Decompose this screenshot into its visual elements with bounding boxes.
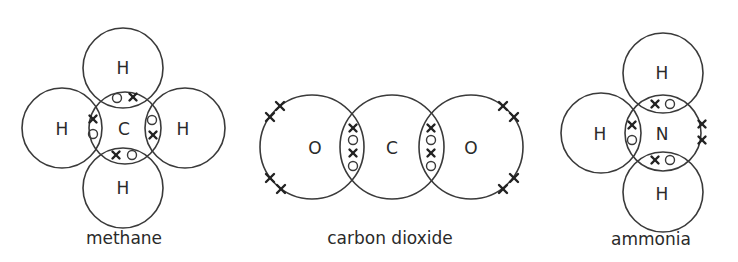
atom-label: C (386, 138, 398, 158)
lone-pair-electron (266, 174, 274, 182)
electron-circle (427, 136, 436, 145)
electron-circle (666, 156, 675, 165)
electron-circle (349, 136, 358, 145)
lone-pair-electron (266, 113, 274, 121)
atom-label: O (464, 138, 477, 158)
lone-pair-electron (277, 185, 285, 193)
atom-label: O (308, 138, 321, 158)
lone-pair-electron (499, 185, 507, 193)
methane-diagram: H H C H H methane (22, 28, 225, 248)
electron-circle (666, 100, 675, 109)
electron-cross (652, 157, 659, 164)
electron-cross (428, 125, 435, 132)
electron-cross (629, 122, 636, 129)
atom-label: N (656, 124, 669, 144)
atom-label: H (56, 119, 69, 139)
atom-label: H (177, 119, 190, 139)
electron-cross (350, 125, 357, 132)
electron-cross (350, 150, 357, 157)
lone-pair-electron (510, 113, 518, 121)
electron-circle (128, 151, 137, 160)
lone-pair-electron (276, 102, 284, 110)
electron-circle (427, 162, 436, 171)
atom-label: H (656, 63, 669, 83)
atom-label: H (656, 184, 669, 204)
atom-label: H (117, 58, 130, 78)
molecule-caption: methane (86, 228, 162, 248)
electron-circle (113, 94, 122, 103)
molecule-caption: carbon dioxide (327, 228, 453, 248)
electron-cross (652, 101, 659, 108)
electron-cross (113, 152, 120, 159)
atom-label: C (118, 119, 130, 139)
electron-cross (428, 150, 435, 157)
lone-pair-electron (499, 102, 507, 110)
atom-label: H (117, 178, 130, 198)
dot-cross-diagrams: H H C H H methane O C O (0, 0, 738, 262)
electron-cross (150, 132, 157, 139)
electron-circle (349, 162, 358, 171)
carbon-dioxide-diagram: O C O carbon dioxide (260, 95, 523, 248)
electron-circle (628, 136, 637, 145)
ammonia-diagram: H H N H ammonia (561, 33, 706, 249)
electron-circle (148, 116, 157, 125)
molecule-caption: ammonia (611, 229, 691, 249)
atom-label: H (594, 124, 607, 144)
electron-cross (130, 94, 137, 101)
